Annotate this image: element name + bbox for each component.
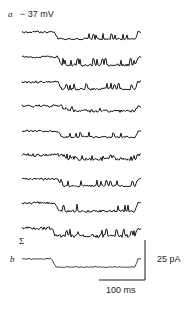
panel-b-sum-trace: [22, 259, 141, 268]
current-trace: [22, 105, 141, 113]
scale-bars: [99, 240, 145, 280]
holding-potential-label: − 37 mV: [20, 9, 54, 19]
current-trace: [22, 202, 141, 213]
current-trace: [22, 153, 141, 160]
current-trace: [22, 130, 141, 138]
current-trace: [22, 178, 141, 187]
current-trace: [22, 227, 141, 238]
panel-a-label: a: [8, 9, 13, 19]
sum-trace: [22, 259, 141, 268]
current-trace: [22, 56, 141, 66]
panel-b-label: b: [10, 254, 15, 264]
current-trace: [22, 31, 141, 40]
current-scale-label: 25 pA: [157, 254, 181, 264]
panel-a-traces: [22, 31, 141, 238]
time-scale-label: 100 ms: [106, 285, 136, 295]
trace-figure: [0, 0, 195, 313]
sum-symbol: Σ: [19, 236, 24, 246]
current-trace: [22, 81, 141, 90]
